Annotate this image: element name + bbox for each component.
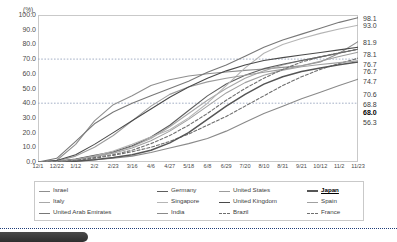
- y-axis-tick: 100.0: [18, 11, 36, 18]
- legend-color-swatch: [307, 190, 318, 192]
- legend-color-swatch: [157, 191, 168, 192]
- legend-item[interactable]: Spain: [307, 196, 369, 207]
- legend-color-swatch: [219, 202, 230, 203]
- legend-label: Germany: [171, 187, 196, 193]
- end-value-label: 74.7: [363, 77, 377, 84]
- legend-item[interactable]: United Arab Emirates: [39, 207, 157, 218]
- end-value-label: 93.0: [363, 22, 377, 29]
- x-axis-tick: 12/22: [50, 163, 64, 169]
- legend-color-swatch: [219, 213, 230, 214]
- legend-item[interactable]: Israel: [39, 185, 157, 196]
- chart-container: (%) 100.090.080.070.060.050.040.030.020.…: [0, 0, 397, 242]
- y-axis-tick: 40.0: [22, 99, 36, 106]
- legend-label: Japan: [321, 187, 339, 193]
- end-value-label: 76.7: [363, 60, 377, 67]
- legend-color-swatch: [307, 202, 318, 203]
- y-axis: 100.090.080.070.060.050.040.030.020.010.…: [2, 14, 38, 162]
- x-axis-tick: 8/31: [277, 163, 288, 169]
- plot-lines: [38, 15, 358, 162]
- x-axis-tick: 6/8: [204, 163, 212, 169]
- x-axis-tick: 2/2: [91, 163, 99, 169]
- legend-item[interactable]: Brazil: [219, 207, 307, 218]
- legend-item[interactable]: Germany: [157, 185, 219, 196]
- x-axis-tick: 1/12: [70, 163, 81, 169]
- end-value-label: 78.1: [363, 51, 377, 58]
- legend-item[interactable]: Japan: [307, 185, 369, 196]
- legend-color-swatch: [39, 191, 50, 192]
- legend-color-swatch: [157, 213, 168, 214]
- end-value-label: 81.9: [363, 38, 377, 45]
- end-value-label: 68.8: [363, 101, 377, 108]
- end-value-label: 76.7: [363, 67, 377, 74]
- series-line: [38, 61, 358, 162]
- end-value-label: 98.1: [363, 14, 377, 21]
- legend-item[interactable]: Italy: [39, 196, 157, 207]
- x-axis-tick: 3/16: [127, 163, 138, 169]
- legend-label: Brazil: [233, 209, 248, 215]
- footer-dotted-divider: [0, 228, 397, 230]
- legend-item[interactable]: United Kingdom: [219, 196, 307, 207]
- y-axis-tick: 20.0: [22, 128, 36, 135]
- legend-label: France: [321, 209, 340, 215]
- footer-tab-shape: [0, 232, 88, 242]
- x-axis-tick: 6/29: [221, 163, 232, 169]
- end-value-label: 68.0: [363, 109, 377, 116]
- x-axis-tick: 4/27: [164, 163, 175, 169]
- x-axis-tick: 12/1: [33, 163, 44, 169]
- legend-color-swatch: [307, 213, 318, 214]
- y-axis-tick: 90.0: [22, 25, 36, 32]
- legend-label: Spain: [321, 198, 337, 204]
- legend-label: United States: [233, 187, 270, 193]
- legend-item[interactable]: France: [307, 207, 369, 218]
- legend: IsraelGermanyUnited StatesJapanItalySing…: [34, 181, 364, 221]
- legend-label: India: [171, 209, 184, 215]
- legend-label: United Arab Emirates: [53, 209, 111, 215]
- x-axis-tick: 5/18: [183, 163, 194, 169]
- legend-label: Italy: [53, 198, 64, 204]
- series-line: [38, 18, 358, 162]
- legend-color-swatch: [39, 213, 50, 214]
- legend-item[interactable]: Singapore: [157, 196, 219, 207]
- legend-label: Singapore: [171, 198, 199, 204]
- y-axis-tick: 80.0: [22, 40, 36, 47]
- end-value-label: 56.3: [363, 119, 377, 126]
- x-axis-tick: 2/23: [108, 163, 119, 169]
- x-axis-tick: 10/12: [313, 163, 327, 169]
- x-axis-tick: 11/2: [334, 163, 344, 169]
- legend-color-swatch: [219, 191, 230, 192]
- y-axis-tick: 10.0: [22, 143, 36, 150]
- x-axis-tick: 9/21: [296, 163, 307, 169]
- x-axis-tick: 4/6: [147, 163, 155, 169]
- y-axis-tick: 70.0: [22, 55, 36, 62]
- legend-label: United Kingdom: [233, 198, 277, 204]
- legend-color-swatch: [39, 202, 50, 203]
- end-value-labels: 98.193.081.978.176.776.774.770.668.868.0…: [360, 0, 397, 165]
- legend-color-swatch: [157, 202, 168, 203]
- legend-grid: IsraelGermanyUnited StatesJapanItalySing…: [39, 185, 361, 219]
- legend-item[interactable]: India: [157, 207, 219, 218]
- x-axis-tick: 7/20: [240, 163, 251, 169]
- y-axis-tick: 30.0: [22, 113, 36, 120]
- y-axis-tick: 60.0: [22, 69, 36, 76]
- legend-item[interactable]: United States: [219, 185, 307, 196]
- x-axis-tick: 8/10: [258, 163, 269, 169]
- end-value-label: 70.6: [363, 91, 377, 98]
- legend-label: Israel: [53, 187, 68, 193]
- y-axis-tick: 50.0: [22, 84, 36, 91]
- x-axis: 12/112/221/122/22/233/164/64/275/186/86/…: [38, 163, 358, 177]
- series-lines: [38, 18, 358, 162]
